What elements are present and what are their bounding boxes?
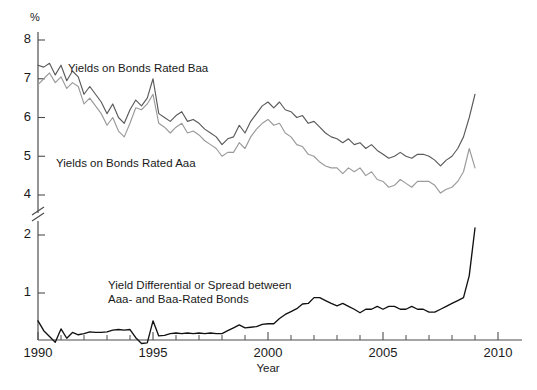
y-ticks-upper: 87654 — [24, 31, 45, 201]
x-tick-label-2000: 2000 — [254, 345, 283, 360]
x-tick-label-1990: 1990 — [24, 345, 53, 360]
y-tick-label-5: 5 — [24, 148, 31, 163]
annotation-aaa-label: Yields on Bonds Rated Aaa — [56, 157, 196, 169]
annotations-group: Yields on Bonds Rated Baa Yields on Bond… — [56, 62, 291, 305]
x-tick-label-1995: 1995 — [139, 345, 168, 360]
y-ticks-lower: 21 — [24, 226, 45, 299]
y-tick-label-6: 6 — [24, 109, 31, 124]
x-tick-label-2005: 2005 — [369, 345, 398, 360]
y-tick-label-1: 1 — [24, 284, 31, 299]
series-group — [38, 63, 475, 343]
y-tick-label-8: 8 — [24, 31, 31, 46]
chart-figure: 87654 21 % 19901995200020052010 Year Yie… — [0, 0, 537, 390]
x-axis-title: Year — [256, 362, 279, 374]
y-tick-label-4: 4 — [24, 186, 31, 201]
y-tick-label-7: 7 — [24, 70, 31, 85]
x-tick-label-2010: 2010 — [484, 345, 513, 360]
bond-yields-line-chart: 87654 21 % 19901995200020052010 Year Yie… — [0, 0, 537, 390]
series-line-aaa — [38, 73, 475, 193]
annotation-spread-label-line1: Yield Differential or Spread between — [108, 279, 291, 291]
y-axis-group: 87654 21 % — [24, 11, 45, 340]
x-axis-group: 19901995200020052010 Year — [24, 332, 522, 374]
y-axis-unit-label: % — [30, 11, 40, 23]
y-tick-label-2: 2 — [24, 226, 31, 241]
annotation-spread-label-line2: Aaa- and Baa-Rated Bonds — [108, 293, 249, 305]
x-ticks: 19901995200020052010 — [24, 332, 513, 360]
series-line-baa — [38, 63, 475, 166]
annotation-baa-label: Yields on Bonds Rated Baa — [68, 62, 209, 74]
